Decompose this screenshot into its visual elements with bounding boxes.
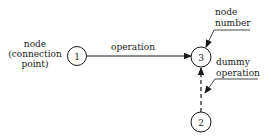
network-diagram: node (connection point) operation 1 3 2 … — [0, 0, 271, 138]
node-number-leader-arrow — [206, 30, 214, 47]
node-number: 1 — [74, 52, 80, 62]
node-annotation-line-1: node — [24, 39, 46, 49]
node-number-annotation-line-1: node — [215, 7, 237, 17]
operation-label: operation — [111, 42, 155, 52]
dummy-annotation-line-1: dummy — [216, 57, 251, 67]
node-3: 3 — [191, 47, 211, 67]
dummy-operation-annotation: dummy operation — [205, 57, 260, 93]
node-annotation-line-3: point) — [22, 59, 49, 69]
node-annotation: node (connection point) — [8, 39, 62, 69]
node-1: 1 — [68, 47, 87, 66]
dummy-annotation-line-2: operation — [216, 68, 260, 78]
node-number: 3 — [198, 53, 204, 63]
node-number-annotation: node number — [206, 7, 251, 47]
node-2: 2 — [191, 112, 211, 132]
dummy-leader-arrow — [205, 79, 215, 93]
node-number-annotation-line-2: number — [215, 18, 251, 28]
node-annotation-line-2: (connection — [8, 49, 62, 59]
node-number: 2 — [198, 118, 204, 128]
